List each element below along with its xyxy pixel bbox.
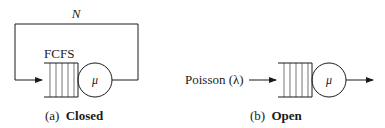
caption-prefix: (b): [250, 108, 265, 123]
server-rate-label: μ: [91, 73, 98, 87]
queueing-diagram: N FCFS μ (a) Closed Poisson (λ): [0, 0, 385, 128]
queue-buffer: [44, 63, 78, 97]
caption-title: Closed: [66, 108, 104, 123]
caption-title: Open: [271, 108, 302, 123]
server-rate-label: μ: [325, 73, 332, 87]
closed-system: N FCFS μ (a) Closed: [15, 6, 138, 123]
open-system: Poisson (λ) μ (b) Open: [185, 63, 373, 123]
queue-buffer: [278, 63, 312, 97]
caption-prefix: (a): [45, 108, 59, 123]
discipline-label: FCFS: [44, 46, 74, 61]
caption-closed: (a) Closed: [45, 108, 104, 123]
feedback-loop: [15, 24, 138, 80]
arrival-label: Poisson (λ): [185, 72, 244, 87]
caption-open: (b) Open: [250, 108, 303, 123]
population-label: N: [71, 6, 82, 21]
